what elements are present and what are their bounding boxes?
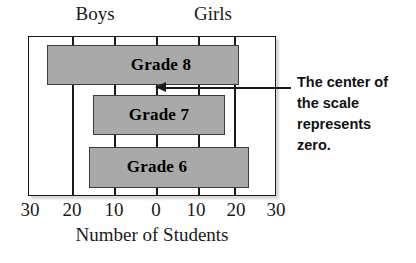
callout-arrow-icon (155, 82, 166, 92)
bar-label-grade-8: Grade 8 (131, 55, 191, 75)
xtick-label-minus-10: 10 (105, 199, 124, 221)
plot-area: Grade 8 Grade 7 Grade 6 (28, 36, 276, 196)
bar-label-grade-6: Grade 6 (127, 157, 187, 177)
group-heading-boys: Boys (75, 3, 114, 25)
bar-chart-figure: Boys Girls Grade 8 Grade 7 Grade 6 30 20… (0, 0, 416, 263)
xtick-label-minus-30: 30 (21, 199, 40, 221)
xtick-label-zero: 0 (151, 199, 161, 221)
xtick-label-plus-20: 20 (227, 199, 246, 221)
xtick-label-minus-20: 20 (63, 199, 82, 221)
callout-text: The center of the scale represents zero. (297, 72, 409, 157)
x-axis-title: Number of Students (75, 224, 228, 246)
callout-leader-line (160, 87, 291, 89)
bar-label-grade-7: Grade 7 (129, 105, 189, 125)
xtick-label-plus-30: 30 (267, 199, 286, 221)
group-heading-girls: Girls (194, 3, 232, 25)
xtick-label-plus-10: 10 (187, 199, 206, 221)
